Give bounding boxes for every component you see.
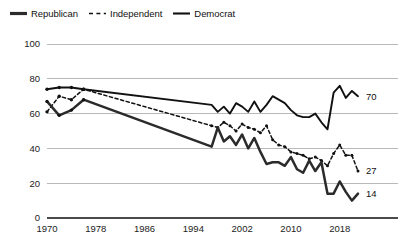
data-point bbox=[259, 131, 262, 134]
x-tick-1970: 1970 bbox=[36, 223, 57, 234]
data-point bbox=[57, 95, 60, 98]
data-point bbox=[296, 152, 299, 155]
data-point bbox=[82, 98, 85, 101]
data-point bbox=[289, 150, 292, 153]
end-label-independent: 27 bbox=[366, 165, 377, 176]
data-point bbox=[235, 130, 238, 133]
x-tick-2010: 2010 bbox=[280, 223, 301, 234]
end-label-democrat: 70 bbox=[366, 91, 377, 102]
data-point bbox=[70, 108, 73, 111]
data-point bbox=[222, 121, 225, 124]
data-point bbox=[338, 143, 341, 146]
data-point bbox=[45, 100, 48, 103]
data-point bbox=[70, 98, 73, 101]
end-label-republican: 14 bbox=[366, 188, 377, 199]
data-point bbox=[350, 154, 353, 157]
data-point bbox=[228, 124, 231, 127]
y-tick-0: 0 bbox=[35, 212, 40, 223]
y-tick-100: 100 bbox=[24, 38, 40, 49]
x-axis-labels: 1970197819861994200220102018 bbox=[36, 223, 350, 234]
series-line-independent bbox=[47, 89, 358, 171]
data-point bbox=[265, 124, 268, 127]
data-point bbox=[302, 154, 305, 157]
data-point bbox=[332, 152, 335, 155]
data-point bbox=[210, 124, 213, 127]
data-point bbox=[70, 86, 73, 89]
data-point bbox=[82, 88, 85, 91]
y-tick-80: 80 bbox=[29, 73, 40, 84]
data-point bbox=[326, 164, 329, 167]
data-point bbox=[57, 86, 60, 89]
y-tick-60: 60 bbox=[29, 108, 40, 119]
trend-chart: Republican Independent Democrat 02040608… bbox=[0, 0, 410, 251]
data-point bbox=[271, 138, 274, 141]
data-point bbox=[357, 170, 360, 173]
data-point bbox=[277, 143, 280, 146]
y-tick-40: 40 bbox=[29, 143, 40, 154]
data-point bbox=[344, 154, 347, 157]
x-tick-2002: 2002 bbox=[232, 223, 253, 234]
data-point bbox=[241, 123, 244, 126]
plot-area: 020406080100 197019781986199420022010201… bbox=[0, 0, 410, 251]
y-tick-20: 20 bbox=[29, 178, 40, 189]
x-tick-2018: 2018 bbox=[329, 223, 350, 234]
x-tick-1994: 1994 bbox=[183, 223, 204, 234]
x-tick-1978: 1978 bbox=[85, 223, 106, 234]
data-point bbox=[45, 88, 48, 91]
data-point bbox=[253, 128, 256, 131]
x-tick-1986: 1986 bbox=[134, 223, 155, 234]
y-axis-labels: 020406080100 bbox=[24, 38, 40, 223]
data-point bbox=[247, 126, 250, 129]
data-point bbox=[283, 145, 286, 148]
data-point bbox=[57, 114, 60, 117]
data-point bbox=[45, 110, 48, 113]
chart-svg: 020406080100 197019781986199420022010201… bbox=[0, 0, 410, 251]
data-point bbox=[314, 156, 317, 159]
